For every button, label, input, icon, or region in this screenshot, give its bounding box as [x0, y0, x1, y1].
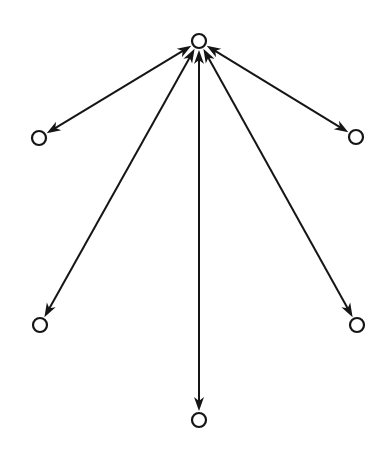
arrowhead-icon — [44, 302, 55, 317]
node-bottom — [192, 413, 206, 427]
edge-line — [48, 56, 190, 310]
arrowhead-icon — [341, 302, 352, 317]
arrowhead-icon — [334, 121, 349, 133]
edges-layer — [44, 46, 352, 411]
node-hub — [192, 34, 206, 48]
star-graph-diagram — [0, 0, 383, 458]
node-lower-left — [33, 318, 47, 332]
edge-line — [214, 50, 342, 128]
edge-hub-bottom — [194, 50, 204, 411]
edge-hub-upper-left — [47, 46, 192, 134]
node-upper-right — [349, 130, 363, 144]
edge-line — [207, 56, 348, 310]
edge-hub-upper-right — [207, 46, 349, 133]
node-upper-left — [32, 131, 46, 145]
edge-line — [54, 50, 185, 129]
arrowhead-icon — [47, 122, 62, 134]
node-lower-right — [350, 318, 364, 332]
